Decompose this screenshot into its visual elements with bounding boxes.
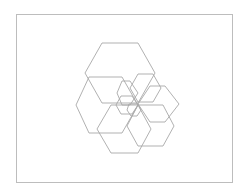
hexagon-diagram [0,0,249,192]
diagram-frame [17,15,233,183]
